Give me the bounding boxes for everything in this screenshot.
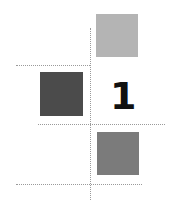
diagram-canvas: 1 (0, 0, 173, 200)
square-dark-gray (40, 72, 83, 116)
horizontal-dotted-divider-bottom (16, 184, 142, 185)
vertical-dotted-divider (90, 28, 91, 200)
square-light-gray (96, 14, 138, 57)
horizontal-dotted-divider-middle (38, 124, 165, 125)
square-medium-gray (97, 132, 139, 175)
horizontal-dotted-divider-top (16, 65, 90, 66)
number-label: 1 (110, 77, 136, 115)
